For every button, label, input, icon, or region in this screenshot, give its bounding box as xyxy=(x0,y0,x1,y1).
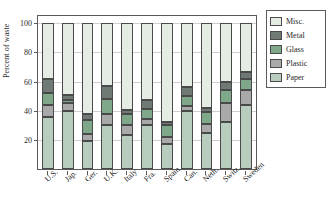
bar-segment-metal[interactable] xyxy=(121,110,133,114)
bar-segment-misc[interactable] xyxy=(101,23,113,86)
bar-column[interactable] xyxy=(42,16,54,169)
bar-segment-glass[interactable] xyxy=(161,125,173,137)
bar-segment-paper[interactable] xyxy=(161,144,173,169)
x-axis-tick-label: Jap. xyxy=(63,169,78,184)
bar-segment-misc[interactable] xyxy=(82,23,94,114)
bar-segment-misc[interactable] xyxy=(62,23,74,95)
stacked-bar[interactable] xyxy=(201,16,213,169)
stacked-bar[interactable] xyxy=(82,16,94,169)
bar-segment-paper[interactable] xyxy=(201,133,213,169)
bar-segment-misc[interactable] xyxy=(121,23,133,110)
legend-label: Misc. xyxy=(286,17,304,26)
bar-segment-glass[interactable] xyxy=(220,90,232,104)
legend-label: Plastic xyxy=(286,59,307,68)
bar-segment-plastic[interactable] xyxy=(141,119,153,125)
bar-segment-paper[interactable] xyxy=(181,111,193,169)
bar-column[interactable] xyxy=(240,16,252,169)
bars-layer xyxy=(38,16,256,169)
stacked-bar[interactable] xyxy=(42,16,54,169)
bar-segment-misc[interactable] xyxy=(42,23,54,79)
bar-segment-plastic[interactable] xyxy=(42,105,54,117)
bar-segment-metal[interactable] xyxy=(62,95,74,99)
bar-segment-plastic[interactable] xyxy=(121,125,133,134)
bar-segment-plastic[interactable] xyxy=(220,103,232,122)
bar-segment-paper[interactable] xyxy=(42,117,54,169)
plot-area: 20406080100 xyxy=(37,15,257,170)
bar-segment-plastic[interactable] xyxy=(82,134,94,141)
legend-label: Metal xyxy=(286,31,305,40)
stacked-bar[interactable] xyxy=(101,16,113,169)
legend-item-paper[interactable]: Paper xyxy=(270,70,322,84)
x-axis-tick-labels: U.S.Jap.Ger.U.K.ItalyFra.SpainCan.Neth.S… xyxy=(37,171,257,221)
bar-segment-glass[interactable] xyxy=(141,109,153,120)
stacked-bar[interactable] xyxy=(161,16,173,169)
bar-segment-misc[interactable] xyxy=(141,23,153,100)
bar-column[interactable] xyxy=(101,16,113,169)
bar-segment-metal[interactable] xyxy=(181,87,193,96)
bar-segment-plastic[interactable] xyxy=(101,114,113,125)
bar-segment-plastic[interactable] xyxy=(161,137,173,144)
bar-segment-glass[interactable] xyxy=(82,120,94,134)
bar-segment-glass[interactable] xyxy=(181,96,193,105)
legend-item-misc[interactable]: Misc. xyxy=(270,14,322,28)
bar-segment-paper[interactable] xyxy=(220,122,232,169)
bar-segment-paper[interactable] xyxy=(121,135,133,169)
bar-segment-metal[interactable] xyxy=(101,86,113,99)
bar-segment-plastic[interactable] xyxy=(62,103,74,110)
bar-column[interactable] xyxy=(181,16,193,169)
bar-segment-metal[interactable] xyxy=(201,108,213,112)
bar-segment-paper[interactable] xyxy=(101,125,113,169)
bar-segment-paper[interactable] xyxy=(62,111,74,169)
bar-column[interactable] xyxy=(62,16,74,169)
y-axis-title: Percent of waste xyxy=(2,0,11,78)
legend-item-glass[interactable]: Glass xyxy=(270,42,322,56)
bar-segment-plastic[interactable] xyxy=(240,90,252,105)
stacked-bar[interactable] xyxy=(181,16,193,169)
bar-column[interactable] xyxy=(141,16,153,169)
bar-segment-metal[interactable] xyxy=(42,79,54,93)
y-axis-tick-label: 60 xyxy=(24,77,32,86)
stacked-bar[interactable] xyxy=(240,16,252,169)
bar-segment-plastic[interactable] xyxy=(181,106,193,112)
stacked-bar[interactable] xyxy=(121,16,133,169)
bar-segment-glass[interactable] xyxy=(240,79,252,91)
bar-segment-plastic[interactable] xyxy=(201,124,213,133)
bar-segment-paper[interactable] xyxy=(141,125,153,169)
bar-segment-glass[interactable] xyxy=(101,99,113,114)
bar-segment-misc[interactable] xyxy=(240,23,252,73)
bar-segment-glass[interactable] xyxy=(62,100,74,104)
bar-segment-paper[interactable] xyxy=(240,105,252,169)
bar-segment-misc[interactable] xyxy=(201,23,213,108)
stacked-bar[interactable] xyxy=(141,16,153,169)
legend-swatch-icon xyxy=(270,31,282,40)
bar-segment-glass[interactable] xyxy=(121,114,133,125)
legend-swatch-icon xyxy=(270,73,282,82)
bar-segment-glass[interactable] xyxy=(201,112,213,124)
legend-swatch-icon xyxy=(270,45,282,54)
bar-segment-metal[interactable] xyxy=(141,100,153,109)
bar-column[interactable] xyxy=(82,16,94,169)
bar-segment-paper[interactable] xyxy=(82,141,94,169)
bar-column[interactable] xyxy=(201,16,213,169)
stacked-bar[interactable] xyxy=(220,16,232,169)
bar-column[interactable] xyxy=(161,16,173,169)
y-axis-tick-label: 100 xyxy=(20,19,32,28)
bar-column[interactable] xyxy=(121,16,133,169)
bar-segment-metal[interactable] xyxy=(82,114,94,120)
bar-segment-metal[interactable] xyxy=(220,82,232,90)
bar-segment-misc[interactable] xyxy=(220,23,232,81)
legend-label: Paper xyxy=(286,73,304,82)
y-axis-tick-label: 80 xyxy=(24,48,32,57)
legend-swatch-icon xyxy=(270,17,282,26)
bar-segment-metal[interactable] xyxy=(161,122,173,125)
bar-segment-misc[interactable] xyxy=(161,23,173,121)
bar-column[interactable] xyxy=(220,16,232,169)
legend-item-plastic[interactable]: Plastic xyxy=(270,56,322,70)
legend-item-metal[interactable]: Metal xyxy=(270,28,322,42)
bar-segment-metal[interactable] xyxy=(240,72,252,79)
stacked-bar[interactable] xyxy=(62,16,74,169)
chart-title-fragment xyxy=(0,0,330,6)
bar-segment-glass[interactable] xyxy=(42,93,54,105)
bar-segment-misc[interactable] xyxy=(181,23,193,87)
y-axis-tick-label: 20 xyxy=(24,135,32,144)
